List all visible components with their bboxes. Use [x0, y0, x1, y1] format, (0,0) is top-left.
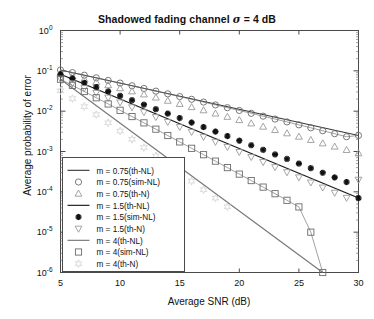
y-tick-label: 10-5: [37, 225, 53, 237]
legend-label: m = 0.75(th-NL): [97, 167, 155, 176]
data-point-marker: [284, 170, 291, 176]
data-point-marker: [343, 195, 350, 201]
data-point-marker: [295, 133, 302, 139]
data-point-marker: [93, 90, 100, 96]
data-point-marker: [188, 129, 195, 135]
data-point-marker: [272, 165, 279, 171]
data-point-marker: [212, 139, 219, 145]
y-tick-label: 100: [39, 24, 53, 36]
chart-svg: 5101520253010010-110-210-310-410-510-6 m…: [0, 0, 374, 319]
data-point-marker: [129, 97, 135, 103]
data-point-marker: [152, 94, 159, 100]
data-point-marker: [224, 113, 231, 119]
data-point-marker: [212, 110, 219, 116]
data-point-marker: [331, 143, 338, 149]
data-point-marker: [176, 100, 183, 106]
data-point-marker: [319, 140, 326, 146]
x-axis-label: Average SNR (dB): [60, 296, 358, 307]
legend-label: m = 1.5(th-N): [97, 225, 146, 234]
data-point-marker: [176, 124, 183, 130]
y-tick-label: 10-4: [37, 185, 53, 197]
data-point-marker: [141, 144, 148, 152]
data-point-marker: [93, 111, 100, 119]
data-point-marker: [260, 123, 267, 129]
data-point-marker: [117, 100, 124, 106]
data-point-marker: [343, 146, 350, 152]
data-point-marker: [105, 119, 112, 127]
legend-label: m = 4(sim-NL): [97, 248, 149, 257]
data-point-marker: [248, 142, 254, 148]
data-point-marker: [320, 170, 326, 176]
data-point-marker: [343, 179, 349, 185]
data-point-marker: [295, 175, 302, 181]
data-point-marker: [236, 117, 243, 123]
legend-label: m = 1.5(th-NL): [97, 202, 150, 211]
y-tick-label: 10-2: [37, 104, 53, 116]
data-point-marker: [224, 144, 231, 150]
data-point-marker: [212, 128, 218, 134]
data-point-marker: [296, 160, 302, 166]
x-tick-label: 10: [115, 278, 125, 288]
data-point-marker: [200, 107, 207, 113]
data-point-marker: [188, 104, 195, 110]
data-point-marker: [272, 126, 279, 132]
legend-label: m = 4(th-NL): [97, 237, 143, 246]
data-point-marker: [117, 127, 124, 135]
data-point-marker: [81, 103, 88, 111]
data-point-marker: [129, 88, 136, 94]
data-point-marker: [141, 102, 147, 108]
data-point-marker: [307, 136, 314, 142]
x-tick-label: 15: [175, 278, 185, 288]
y-tick-label: 10-1: [37, 64, 53, 76]
data-point-marker: [164, 119, 171, 125]
data-point-marker: [177, 115, 183, 121]
x-tick-label: 20: [234, 278, 244, 288]
data-point-marker: [308, 165, 314, 171]
data-point-marker: [129, 135, 136, 143]
data-point-marker: [200, 124, 206, 130]
data-point-marker: [248, 154, 255, 160]
data-point-marker: [284, 156, 290, 162]
y-tick-label: 10-6: [37, 266, 53, 278]
legend-label: m = 1.5(sim-NL): [97, 213, 156, 222]
legend-label: m = 0.75(th-N): [97, 190, 150, 199]
data-point-marker: [105, 95, 112, 101]
x-tick-label: 5: [58, 278, 63, 288]
data-point-marker: [260, 147, 266, 153]
data-point-marker: [189, 119, 195, 125]
chart-figure: Shadowed fading channel σ = 4 dB 5101520…: [0, 0, 374, 319]
data-point-marker: [331, 190, 338, 196]
chart-legend: m = 0.75(th-NL)m = 0.75(sim-NL)m = 0.75(…: [63, 158, 185, 272]
data-point-marker: [152, 115, 159, 121]
data-point-marker: [188, 177, 195, 185]
data-point-marker: [248, 120, 255, 126]
series-m-0-75-th-n: [57, 70, 362, 156]
y-tick-label: 10-3: [37, 145, 53, 157]
data-point-marker: [260, 160, 267, 166]
data-point-marker: [129, 105, 136, 111]
data-point-marker: [284, 130, 291, 136]
y-axis-label: Average probability of error: [22, 26, 33, 246]
data-point-marker: [164, 97, 171, 103]
data-point-marker: [319, 185, 326, 191]
data-point-marker: [153, 106, 159, 112]
plot-area: 5101520253010010-110-210-310-410-510-6 m…: [0, 0, 374, 319]
data-point-marker: [307, 180, 314, 186]
data-point-marker: [332, 174, 338, 180]
legend-label: m = 4(th-N): [97, 260, 139, 269]
x-tick-label: 30: [353, 278, 363, 288]
data-point-marker: [236, 138, 242, 144]
x-tick-label: 25: [294, 278, 304, 288]
data-point-marker: [141, 110, 148, 116]
data-point-marker: [236, 149, 243, 155]
data-point-marker: [165, 110, 171, 116]
data-point-marker: [200, 134, 207, 140]
series-m-0-75-sim-nl: [57, 67, 361, 140]
data-point-marker: [141, 91, 148, 97]
legend-label: m = 0.75(sim-NL): [97, 178, 161, 187]
data-point-marker: [224, 133, 230, 139]
data-point-marker: [272, 151, 278, 157]
data-point-marker: [69, 95, 76, 103]
